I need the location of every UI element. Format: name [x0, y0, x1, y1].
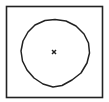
diagram-canvas [0, 0, 109, 102]
center-x-icon [52, 50, 56, 54]
diagram-svg [0, 0, 109, 102]
